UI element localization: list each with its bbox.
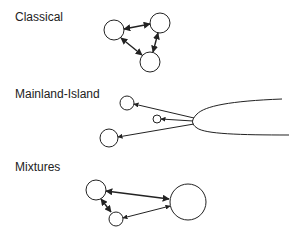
- population-node: [150, 13, 170, 33]
- population-node: [170, 184, 206, 220]
- migration-arrow: [134, 104, 194, 118]
- bidirectional-arrow: [101, 199, 111, 212]
- migration-arrow: [161, 119, 193, 121]
- bidirectional-arrow: [121, 38, 142, 55]
- mainland-island-diagram: [100, 96, 289, 147]
- classical-diagram: [104, 13, 170, 72]
- diagram-canvas: [0, 0, 297, 233]
- mainland-shape: [193, 99, 290, 135]
- bidirectional-arrow: [153, 33, 158, 52]
- bidirectional-arrow: [106, 191, 169, 199]
- population-node: [86, 180, 106, 200]
- population-node: [140, 52, 160, 72]
- migration-arrow: [118, 124, 194, 137]
- population-node: [104, 20, 124, 40]
- island-node: [100, 129, 118, 147]
- population-node: [109, 212, 123, 226]
- bidirectional-arrow: [123, 206, 170, 218]
- mixtures-diagram: [86, 180, 206, 226]
- island-node: [120, 96, 134, 110]
- bidirectional-arrow: [124, 24, 150, 29]
- island-node: [153, 115, 161, 123]
